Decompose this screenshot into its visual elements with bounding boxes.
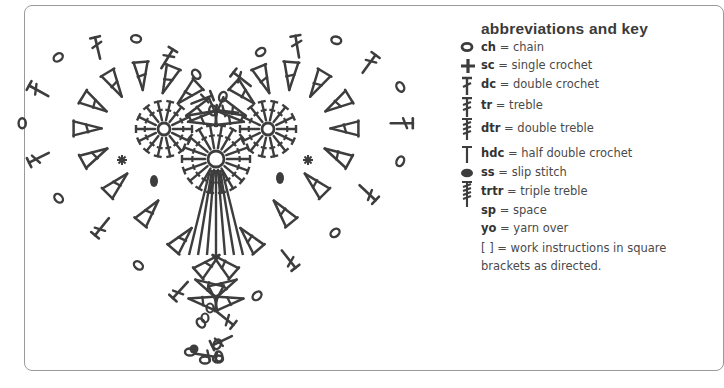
outer-chain (131, 34, 142, 43)
outer-stitch-stem (295, 36, 299, 58)
key-row-half-double-crochet: hdc = half double crochet (460, 145, 690, 163)
outer-chain (53, 192, 65, 204)
key-meaning: = half double crochet (508, 146, 632, 160)
key-row-single-crochet: sc = single crochet (460, 57, 690, 75)
double-crochet-icon (460, 76, 478, 96)
key-meaning: = slip stitch (498, 165, 566, 179)
outer-stitch-bar (366, 60, 376, 63)
center-flower-spoke-bar (209, 135, 215, 136)
right-flower-spoke-bar (261, 147, 267, 148)
key-row-chain: ch = chain (460, 39, 690, 57)
key-row-square-brackets-cont: brackets as directed. (460, 258, 690, 276)
key-meaning: = chain (500, 40, 544, 54)
mid-top (319, 188, 330, 199)
outer-chain (395, 81, 406, 93)
double-treble-icon (460, 118, 478, 140)
left-flower-spoke-bar (145, 135, 148, 140)
outer-stitch-bar (226, 315, 229, 325)
treble-icon (460, 97, 478, 117)
left-flower-spoke-bar (157, 147, 163, 148)
slip-stitch-mark (276, 172, 284, 184)
key-meaning: = single crochet (498, 58, 592, 72)
left-flower-spoke-top (137, 113, 140, 120)
right-flower-spoke-top (291, 113, 294, 120)
left-flower-ring (158, 123, 170, 135)
mid-top (345, 155, 353, 169)
mid-top (193, 267, 204, 279)
center-flower-spoke-top (218, 125, 226, 126)
right-flower-spoke-top (270, 101, 278, 103)
left-flower-spoke-bar (165, 147, 171, 148)
right-flower-spoke-bar (269, 110, 275, 111)
mid-top (283, 61, 299, 62)
outer-stitch-bar (164, 55, 175, 57)
mid-top (79, 90, 87, 104)
outer-chain (19, 118, 26, 128)
half-double-crochet-icon (460, 145, 478, 165)
key-abbr: sp (481, 203, 496, 217)
right-flower-spoke-top (270, 155, 278, 157)
left-flower-spoke-top (137, 138, 140, 145)
right-flower-spoke-bar (284, 135, 287, 140)
key-abbr: dtr (481, 121, 500, 135)
right-flower-ring (262, 123, 274, 135)
outer-stitch-bar (95, 228, 105, 231)
mid-bar (232, 105, 233, 115)
mid-top (318, 69, 332, 77)
key-abbr: [ ] (481, 241, 494, 255)
right-flower-spoke-bar (284, 118, 287, 123)
heart-stitches (19, 34, 413, 363)
key-abbr: yo (481, 221, 496, 235)
key-meaning: = treble (496, 98, 543, 112)
key-title: abbreviations and key (481, 20, 648, 38)
key-abbr: tr (481, 98, 492, 112)
mid-top (228, 78, 239, 90)
key-meaning: = triple treble (507, 184, 588, 198)
mid-top (345, 90, 353, 104)
left-flower-spoke-top (154, 155, 162, 157)
outer-stitch-stem (363, 55, 376, 73)
slip-stitch-mark (150, 175, 158, 187)
mid-top (101, 69, 115, 77)
outer-chain (329, 227, 341, 239)
center-flower-ring (208, 151, 224, 167)
mid-top (133, 61, 149, 62)
mid-top (229, 267, 240, 279)
key-meaning: = double crochet (500, 77, 599, 91)
right-flower-spoke-top (291, 138, 294, 145)
key-abbr: hdc (481, 146, 504, 160)
key-meaning: = work instructions in square (497, 241, 666, 255)
key-abbr: ch (481, 40, 496, 54)
mid-top (134, 217, 146, 227)
center-flower-spoke-top (183, 167, 186, 175)
outer-chain (255, 46, 267, 57)
outer-stitch-stem (95, 37, 100, 58)
single-crochet-icon (460, 57, 478, 77)
outer-chain (331, 36, 342, 45)
key-row-yarn-over: yo = yarn over (460, 220, 690, 238)
outer-stitch-stem (216, 311, 233, 325)
right-flower-spoke-bar (269, 147, 275, 148)
right-flower-spoke-top (258, 101, 266, 103)
left-flower-spoke-top (154, 101, 162, 103)
mid-top (285, 217, 297, 227)
left-flower-spoke-top (166, 155, 174, 157)
center-flower-spoke-bar (237, 164, 239, 170)
key-row-treble: tr = treble (460, 97, 690, 115)
mid-top (166, 64, 181, 70)
right-flower-spoke-bar (249, 118, 252, 123)
outer-stitch-bar (35, 84, 36, 95)
center-flower-spoke-bar (237, 148, 239, 154)
mid-top (167, 244, 179, 254)
center-flower-spoke-top (247, 167, 250, 175)
left-flower-spoke-bar (165, 110, 171, 111)
mid-bar (202, 296, 203, 306)
mid-top (251, 64, 266, 70)
mid-top (253, 244, 265, 254)
left-flower-spoke-bar (157, 110, 163, 111)
mid-top (102, 188, 113, 199)
key-meaning: = double treble (504, 121, 594, 135)
key-row-square-brackets: [ ] = work instructions in square (460, 240, 690, 258)
left-flower-spoke-bar (180, 135, 183, 140)
bottom-slip-stitch (190, 345, 199, 354)
